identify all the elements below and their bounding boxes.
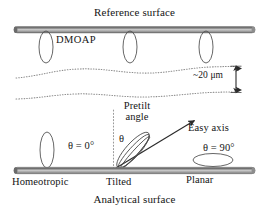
planar-ellipse	[193, 154, 233, 167]
pretilt-angle-line2: angle	[114, 111, 160, 122]
dmoap-ellipse-left	[39, 31, 53, 63]
reference-surface-label: Reference surface	[0, 7, 269, 19]
easy-axis-label: Easy axis	[188, 122, 229, 133]
gap-dimension-arrow	[231, 66, 242, 94]
homeotropic-label: Homeotropic	[12, 176, 69, 187]
reference-surface-bar	[14, 27, 255, 33]
analytical-surface-label: Analytical surface	[0, 194, 269, 206]
theta-ninety-label: θ = 90°	[203, 142, 235, 153]
pretilt-angle-line1: Pretilt	[114, 100, 160, 111]
theta-zero-label: θ = 0°	[68, 140, 94, 151]
homeotropic-ellipse	[40, 132, 54, 168]
dmoap-ellipse-middle	[123, 31, 137, 63]
planar-label: Planar	[186, 174, 213, 185]
dmoap-label: DMOAP	[56, 34, 96, 45]
analytical-surface-bar	[14, 167, 255, 173]
tilted-label: Tilted	[106, 176, 131, 187]
liquid-crystal-cell-diagram: Reference surface DMOAP ~20 μm Pretilt a…	[0, 0, 269, 217]
easy-axis-arrow	[116, 121, 195, 169]
theta-symbol-label: θ	[119, 133, 124, 144]
gap-thickness-label: ~20 μm	[193, 70, 223, 80]
dmoap-ellipse-right	[199, 31, 213, 63]
interface-lower	[16, 92, 236, 99]
pretilt-angle-label: Pretilt angle	[114, 100, 160, 123]
